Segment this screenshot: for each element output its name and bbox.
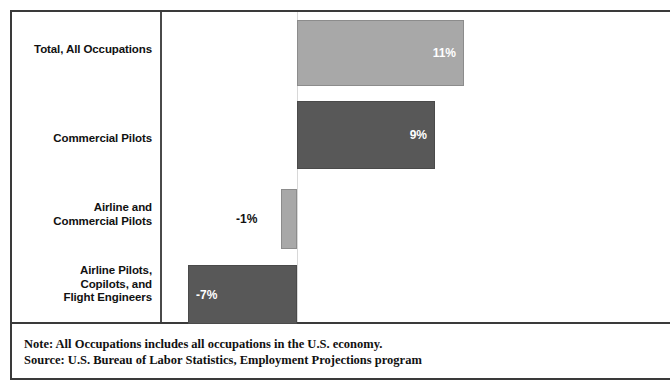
bar-total-all-occupations[interactable]: 11% [297,20,464,86]
category-label-line: Airline Pilots, [80,264,152,276]
category-label-line: Total, All Occupations [34,43,152,55]
bar-airline-pilots-copilots-flight-engineers[interactable]: -7% [188,265,297,324]
category-label-line: Flight Engineers [64,291,153,303]
category-label-line: Commercial Pilots [53,132,152,144]
footnote-source: Source: U.S. Bureau of Labor Statistics,… [24,352,670,368]
category-label-line: Copilots, and [80,278,152,290]
footnote-block: Note: All Occupations includes all occup… [12,324,670,378]
category-label-line: Airline and [94,201,152,213]
category-label-total-all-occupations: Total, All Occupations [14,43,152,57]
footnote-note: Note: All Occupations includes all occup… [24,336,670,352]
category-label-commercial-pilots: Commercial Pilots [14,132,152,146]
category-row-total-all-occupations: Total, All Occupations [12,12,160,100]
category-row-commercial-pilots: Commercial Pilots [12,100,160,178]
category-row-airline-and-commercial-pilots: Airline and Commercial Pilots [12,178,160,252]
plot-region: Total, All Occupations Commercial Pilots… [12,12,670,324]
category-label-airline-and-commercial-pilots: Airline and Commercial Pilots [14,201,152,228]
bar-airline-and-commercial-pilots[interactable] [281,189,297,249]
bar-value-airline-and-commercial-pilots: -1% [236,212,257,226]
category-label-airline-pilots-copilots-flight-engineers: Airline Pilots, Copilots, and Flight Eng… [14,264,152,305]
bars-area: 11% 9% -1% -7% [162,12,670,322]
category-label-line: Commercial Pilots [53,215,152,227]
category-axis-column: Total, All Occupations Commercial Pilots… [12,12,162,322]
category-row-airline-pilots-copilots-flight-engineers: Airline Pilots, Copilots, and Flight Eng… [12,252,160,324]
bar-value-total-all-occupations: 11% [433,46,456,60]
bar-commercial-pilots[interactable]: 9% [297,101,435,169]
chart-figure: Total, All Occupations Commercial Pilots… [10,10,670,380]
bar-value-commercial-pilots: 9% [410,128,427,142]
bar-value-airline-pilots-copilots-flight-engineers: -7% [196,288,217,302]
